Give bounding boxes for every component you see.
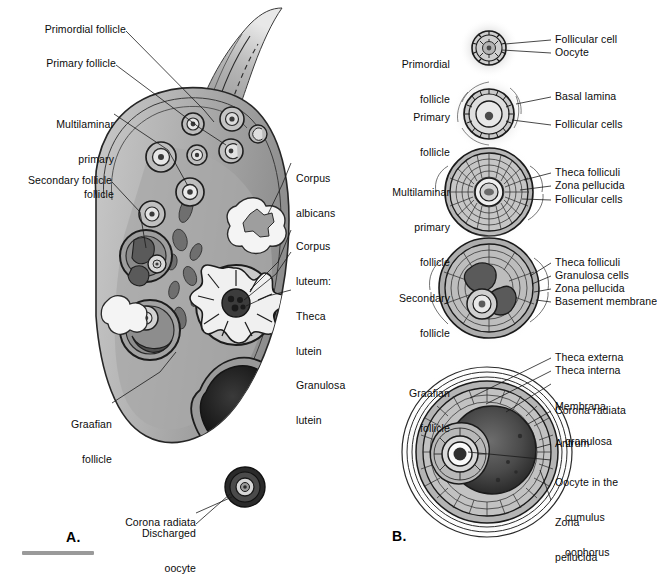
panel-a-ovary	[95, 8, 291, 524]
label-primordial-follicle-a: Primordial follicle	[0, 24, 126, 36]
callout-corona-radiata: Corona radiata	[555, 405, 647, 417]
callout-theca-externa: Theca externa	[555, 352, 647, 364]
callout-zona-pellucida-multilaminar: Zona pellucida	[555, 180, 647, 192]
callout-antrum: Antrum	[555, 438, 647, 450]
label-line: primary	[0, 154, 114, 166]
panel-letter-b: B.	[392, 528, 407, 544]
discharged-oocyte-a	[225, 467, 265, 507]
label-line: Multilaminar	[0, 119, 114, 131]
callout-granulosa-cells: Granulosa cells	[555, 270, 647, 282]
label-line: Primary	[350, 112, 450, 124]
label-line: Secondary	[350, 293, 450, 305]
label-line: Primordial	[350, 59, 450, 71]
label-secondary-follicle-a: Secondary follicle	[0, 175, 112, 187]
label-line: Graafian	[350, 388, 450, 400]
callout-follicular-cell: Follicular cell	[555, 34, 647, 46]
stage-multilaminar-primary-follicle	[436, 140, 544, 244]
label-line: Oocyte in the	[555, 477, 647, 489]
callout-follicular-cells: Follicular cells	[555, 119, 647, 131]
scale-bar	[22, 551, 94, 555]
callout-basement-membrane: Basement membrane	[555, 296, 649, 308]
label-line: follicle	[0, 454, 112, 466]
label-line: Zona	[555, 517, 647, 529]
callout-zona-pellucida-graafian: Zona pellucida	[555, 494, 647, 578]
label-line: primary	[338, 222, 450, 234]
label-multilaminar-primary-follicle-a: Multilaminar primary follicle	[0, 96, 114, 224]
label-line: Graafian	[0, 419, 112, 431]
label-line: follicle	[0, 189, 114, 201]
callout-theca-folliculi-secondary: Theca folliculi	[555, 257, 647, 269]
stage-name-graafian-follicle: Graafian follicle	[350, 365, 450, 458]
label-line: follicle	[350, 147, 450, 159]
label-line: Multilaminar	[338, 187, 450, 199]
panel-letter-a: A.	[66, 529, 81, 545]
callout-zona-pellucida-secondary: Zona pellucida	[555, 283, 647, 295]
corpus-luteum-a	[190, 265, 286, 345]
callout-basal-lamina: Basal lamina	[555, 91, 647, 103]
callout-theca-interna: Theca interna	[555, 365, 647, 377]
callout-oocyte: Oocyte	[555, 47, 647, 59]
callout-theca-folliculi-multilaminar: Theca folliculi	[555, 167, 647, 179]
label-line: pellucida	[555, 552, 647, 564]
stage-primordial-follicle	[459, 18, 519, 78]
label-line: follicle	[350, 423, 450, 435]
stage-name-secondary-follicle: Secondary follicle	[350, 270, 450, 363]
label-line: oocyte	[60, 563, 196, 575]
label-line: follicle	[350, 328, 450, 340]
label-line: follicle	[338, 257, 450, 269]
callout-follicular-cells-multilaminar: Follicular cells	[555, 194, 647, 206]
label-corona-radiata-a: Corona radiata	[60, 517, 196, 529]
label-primary-follicle-a: Primary follicle	[0, 58, 116, 70]
label-graafian-follicle-a: Graafian follicle	[0, 396, 112, 489]
